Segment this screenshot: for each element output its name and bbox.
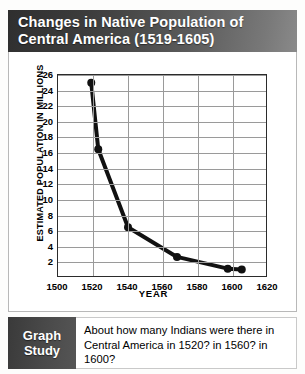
chart-title-bar: Changes in Native Population of Central … <box>8 10 297 52</box>
gridline-horizontal <box>58 231 266 232</box>
data-point-marker <box>173 253 181 261</box>
y-axis-tick-label: 4 <box>48 240 53 251</box>
x-axis-label: YEAR <box>9 288 298 299</box>
graph-study-question: About how many Indians were there in Cen… <box>76 317 297 369</box>
gridline-horizontal <box>58 137 266 138</box>
y-axis-tick-label: 16 <box>42 147 53 158</box>
y-axis-tick-label: 18 <box>42 131 53 142</box>
y-axis-tick-label: 10 <box>42 193 53 204</box>
y-axis-tick-label: 8 <box>48 209 53 220</box>
chart-title-line-1: Changes in Native Population of <box>18 14 297 31</box>
worksheet-page: Changes in Native Population of Central … <box>0 0 305 374</box>
gridline-horizontal <box>58 106 266 107</box>
gridline-horizontal <box>58 184 266 185</box>
y-axis-tick-label: 24 <box>42 84 53 95</box>
y-axis-tick-label: 6 <box>48 225 53 236</box>
y-axis-tick-label: 20 <box>42 115 53 126</box>
series-line <box>91 83 242 270</box>
y-axis-tick-label: 26 <box>42 69 53 80</box>
gridline-vertical <box>93 75 94 276</box>
data-point-marker <box>238 265 246 273</box>
chart-container: ESTIMATED POPULATION IN MILLIONS 2468101… <box>8 52 297 312</box>
gridline-vertical <box>198 75 199 276</box>
gridline-vertical <box>128 75 129 276</box>
gridline-horizontal <box>58 262 266 263</box>
gridline-vertical <box>233 75 234 276</box>
gridline-horizontal <box>58 169 266 170</box>
graph-study-tab: Graph Study <box>8 317 76 369</box>
y-axis-tick-label: 14 <box>42 162 53 173</box>
gridline-horizontal <box>58 200 266 201</box>
plot-area <box>57 74 267 277</box>
y-axis-tick-label: 12 <box>42 178 53 189</box>
data-point-marker <box>87 79 95 87</box>
data-point-marker <box>224 265 232 273</box>
gridline-vertical <box>163 75 164 276</box>
gridline-horizontal <box>58 122 266 123</box>
chart-title-line-2: Central America (1519-1605) <box>18 31 297 48</box>
gridline-horizontal <box>58 75 266 76</box>
y-axis-tick-label: 2 <box>48 256 53 267</box>
gridline-horizontal <box>58 91 266 92</box>
gridline-horizontal <box>58 247 266 248</box>
y-axis-tick-label: 22 <box>42 100 53 111</box>
graph-study-footer: Graph Study About how many Indians were … <box>8 317 297 369</box>
gridline-horizontal <box>58 216 266 217</box>
data-point-marker <box>94 145 102 153</box>
graph-study-tab-line-2: Study <box>24 343 60 358</box>
graph-study-tab-line-1: Graph <box>23 328 61 343</box>
plot-area-wrapper: 2468101214161820222426 15001520154015601… <box>57 74 267 277</box>
gridline-horizontal <box>58 153 266 154</box>
